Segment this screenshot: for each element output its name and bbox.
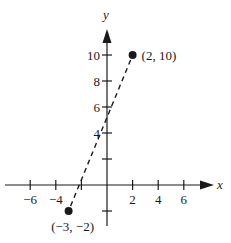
x-axis-label: x <box>216 177 223 192</box>
x-tick-label: −6 <box>23 192 37 207</box>
x-tick-label: −4 <box>49 192 63 207</box>
y-tick-label: 4 <box>94 126 101 141</box>
y-tick-label: 8 <box>94 74 101 89</box>
x-tick-label: 6 <box>181 192 188 207</box>
dashed-line <box>71 60 131 206</box>
x-tick-label: 2 <box>129 192 136 207</box>
y-axis-arrow-icon <box>103 29 112 43</box>
data-point <box>65 207 73 215</box>
x-tick-label: 4 <box>155 192 162 207</box>
point-label: (2, 10) <box>142 48 177 63</box>
coordinate-plane: −6−424646810 (−3, −2)(2, 10) x y <box>0 0 231 243</box>
y-tick-label: 10 <box>87 48 100 63</box>
x-axis-arrow-icon <box>200 181 214 190</box>
data-point <box>129 51 137 59</box>
point-label: (−3, −2) <box>51 219 94 234</box>
y-tick-label: 6 <box>94 100 101 115</box>
y-axis-label: y <box>101 7 109 22</box>
tick-labels: −6−424646810 <box>23 48 187 208</box>
